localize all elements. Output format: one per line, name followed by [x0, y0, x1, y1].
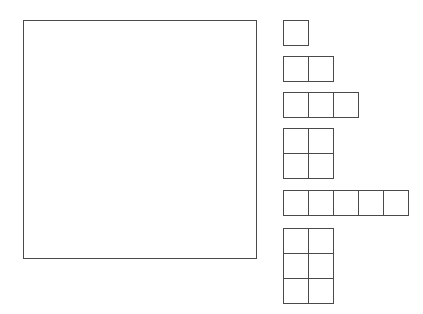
piece-cell: [333, 190, 359, 216]
piece-cell: [283, 190, 309, 216]
piece-2x2[interactable]: [283, 128, 333, 178]
piece-cell: [308, 190, 334, 216]
piece-cell: [308, 153, 334, 179]
piece-cell: [308, 253, 334, 279]
piece-cell: [283, 20, 309, 46]
piece-cell: [283, 153, 309, 179]
piece-cell: [358, 190, 384, 216]
piece-1x5[interactable]: [283, 190, 408, 215]
piece-cell: [283, 56, 309, 82]
piece-cell: [308, 278, 334, 304]
puzzle-canvas: [0, 0, 423, 314]
piece-cell: [383, 190, 409, 216]
piece-3x2[interactable]: [283, 228, 333, 303]
piece-cell: [308, 56, 334, 82]
piece-cell: [308, 92, 334, 118]
piece-1x3[interactable]: [283, 92, 358, 117]
target-square-region[interactable]: [23, 20, 257, 259]
piece-cell: [308, 128, 334, 154]
piece-cell: [308, 228, 334, 254]
piece-cell: [283, 228, 309, 254]
piece-1x1[interactable]: [283, 20, 308, 45]
piece-cell: [283, 253, 309, 279]
piece-1x2[interactable]: [283, 56, 333, 81]
piece-cell: [333, 92, 359, 118]
piece-cell: [283, 92, 309, 118]
piece-cell: [283, 128, 309, 154]
piece-cell: [283, 278, 309, 304]
